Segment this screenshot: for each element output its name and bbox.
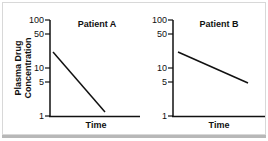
y-tick-label: 100 [152,15,167,25]
y-tick-label: 50 [157,29,167,39]
panel-patient-b: 100 50 10 5 1 Patient B Time [152,15,265,130]
panel-title: Patient B [199,19,239,29]
y-axis-label-line1: Plasma Drug [13,40,23,95]
x-axis-label: Time [209,120,230,130]
chart-svg: Plasma Drug Concentration 100 50 10 5 1 … [0,0,268,141]
y-axis-label-line2: Concentration [23,37,33,98]
y-tick-label: 10 [34,63,44,73]
y-tick-label: 50 [34,29,44,39]
y-tick-label: 1 [162,111,167,121]
series-line-patient-b [178,52,248,83]
y-tick-label: 1 [39,111,44,121]
y-tick-label: 100 [29,15,44,25]
panel-patient-a: Plasma Drug Concentration 100 50 10 5 1 … [13,15,140,130]
panel-title: Patient A [78,19,117,29]
series-line-patient-a [53,52,105,112]
y-tick-label: 10 [157,63,167,73]
x-axis-label: Time [86,120,107,130]
y-tick-label: 5 [39,77,44,87]
y-tick-label: 5 [162,77,167,87]
